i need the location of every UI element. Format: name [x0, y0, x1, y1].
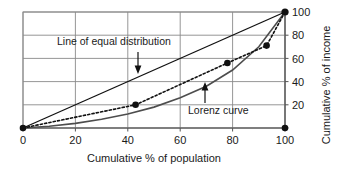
x-tick-label: 40	[122, 134, 134, 146]
data-point	[282, 125, 289, 132]
lorenz-curve-figure: Line of equal distribution Lorenz curve …	[0, 0, 339, 171]
y-tick-label: 100	[292, 6, 310, 18]
data-point	[132, 102, 139, 109]
y-tick-label: 40	[292, 76, 304, 88]
x-tick-label: 20	[69, 134, 81, 146]
x-tick-label: 0	[20, 134, 26, 146]
x-tick-label: 60	[174, 134, 186, 146]
data-point	[20, 125, 27, 132]
y-tick-label: 60	[292, 53, 304, 65]
data-point	[263, 42, 270, 49]
y-axis-title: Cumulative % of income	[320, 26, 332, 145]
data-point	[281, 8, 288, 15]
x-tick-label: 100	[276, 134, 294, 146]
y-tick-label: 80	[292, 29, 304, 41]
data-point	[224, 60, 231, 67]
lorenz-curve-annotation-label: Lorenz curve	[188, 104, 249, 116]
x-tick-label: 80	[226, 134, 238, 146]
x-axis-title: Cumulative % of population	[87, 152, 221, 164]
y-tick-label: 20	[292, 99, 304, 111]
equal-distribution-annotation-label: Line of equal distribution	[57, 35, 171, 47]
chart-svg: Line of equal distribution Lorenz curve …	[0, 0, 339, 171]
